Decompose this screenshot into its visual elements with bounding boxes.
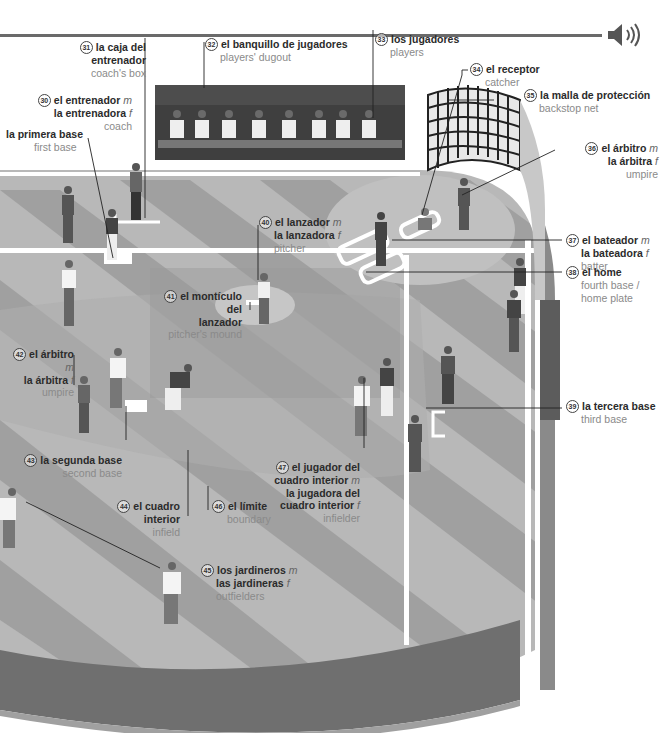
label-catcher: 34el receptor catcher [470, 63, 580, 89]
number-badge: 45 [201, 564, 214, 577]
number-badge: 42 [13, 348, 26, 361]
number-badge: 30 [38, 94, 51, 107]
label-infield: 44el cuadro interior infield [80, 500, 180, 538]
number-badge: 43 [24, 454, 37, 467]
number-badge: 37 [566, 234, 579, 247]
label-outfielders: 45los jardineros m las jardineras f outf… [201, 564, 311, 602]
number-badge: 38 [566, 266, 579, 279]
label-third-base: 39la tercera base third base [566, 400, 667, 426]
number-badge: 40 [259, 216, 272, 229]
label-home-plate: 38el home fourth base / home plate [566, 266, 667, 304]
number-badge: 31 [80, 41, 93, 54]
number-badge: 41 [164, 290, 177, 303]
number-badge: 47 [276, 461, 289, 474]
number-badge: 44 [117, 500, 130, 513]
number-badge: 36 [585, 142, 598, 155]
label-players-dugout: 32el banquillo de jugadores players' dug… [205, 38, 365, 64]
number-badge: 39 [566, 400, 579, 413]
label-players: 33los jugadores players [375, 33, 485, 59]
number-badge: 34 [470, 63, 483, 76]
label-umpire-home: 36el árbitro m la árbitra f umpire [550, 142, 658, 180]
label-pitcher: 40el lanzador m la lanzadora f pitcher [259, 216, 369, 254]
label-coach: 30el entrenador m la entrenadora f coach [20, 94, 132, 132]
label-boundary: 46el límite boundary [212, 500, 282, 526]
label-backstop-net: 35la malla de protección backstop net [524, 89, 667, 115]
label-pitchers-mound: 41el montículo del lanzador pitcher's mo… [150, 290, 242, 341]
number-badge: 32 [205, 38, 218, 51]
label-umpire-field: 42el árbitro m la árbitra f umpire [4, 348, 74, 399]
label-coachs-box: 31la caja del entrenador coach's box [28, 41, 146, 79]
number-badge: 33 [375, 33, 388, 46]
label-first-base: la primera base first base [6, 128, 116, 153]
number-badge: 35 [524, 89, 537, 102]
label-second-base: 43la segunda base second base [20, 454, 122, 480]
number-badge: 46 [212, 500, 225, 513]
